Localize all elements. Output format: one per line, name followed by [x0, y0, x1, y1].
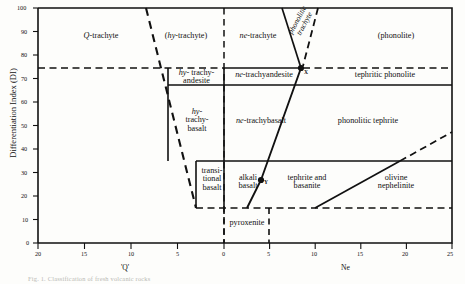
y-tick-100: 100	[17, 4, 26, 11]
y-tick-0: 0	[26, 239, 29, 246]
y-tick-60: 60	[21, 98, 27, 105]
y-axis-title: Differentiation Index (DI)	[8, 53, 18, 173]
x-axis-title-ne: Ne	[341, 263, 350, 272]
x-tick-q-15: 15	[81, 250, 87, 257]
figure-caption: Fig. 1. Classification of fresh volcanic…	[28, 275, 150, 282]
y-tick-90: 90	[21, 28, 27, 35]
x-tick-ne-15: 15	[357, 250, 363, 257]
x-tick-ne-20: 20	[402, 250, 408, 257]
x-tick-q-5: 5	[176, 250, 179, 257]
x-tick-ne-10: 10	[311, 250, 317, 257]
x-tick-q-20: 20	[35, 250, 41, 257]
y-tick-50: 50	[21, 122, 27, 129]
boundary-main-diagonal	[247, 68, 301, 208]
y-tick-40: 40	[21, 145, 27, 152]
y-tick-70: 70	[21, 75, 27, 82]
y-tick-20: 20	[21, 192, 27, 199]
boundary-nephelinite-dashed	[400, 132, 452, 161]
y-tick-10: 10	[22, 216, 28, 223]
x-tick-q-0: 0	[222, 250, 225, 257]
x-axis-title-q: 'Q'	[121, 263, 129, 272]
y-tick-80: 80	[21, 51, 27, 58]
boundary-nephelinite-diagonal	[315, 161, 400, 208]
x-tick-ne-25: 25	[447, 250, 453, 257]
boundary-phonolitic-trachyte-left	[282, 8, 301, 68]
x-marker-label: X	[304, 69, 308, 75]
boundary-pyroxenite-box	[224, 208, 269, 243]
boundary-phonolitic-trachyte-right	[303, 8, 318, 66]
x-tick-q-10: 10	[128, 250, 134, 257]
boundary-q-hy-divide	[146, 8, 196, 208]
x-tick-ne-5: 5	[267, 250, 270, 257]
y-marker-label: Y	[264, 179, 268, 185]
x-axis-ticks	[38, 243, 452, 249]
y-tick-30: 30	[21, 169, 27, 176]
classification-diagram: Differentiation Index (DI) 100 90 80 70 …	[0, 0, 465, 284]
diagram-canvas	[0, 0, 465, 284]
